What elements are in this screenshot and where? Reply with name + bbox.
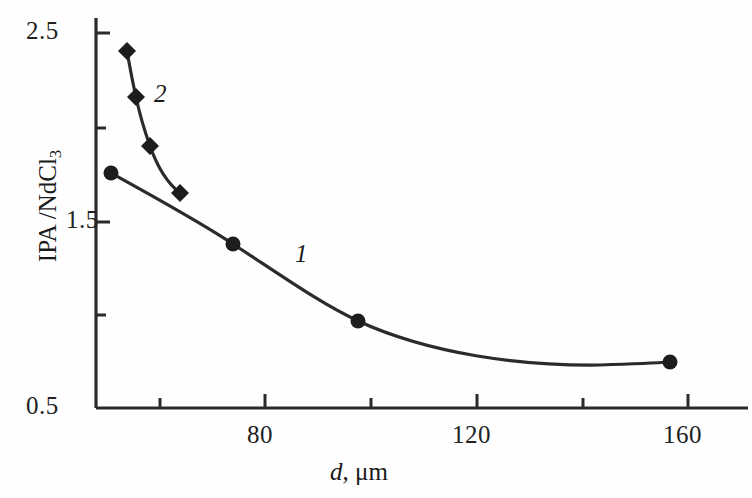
y-axis-title-subscript: 3: [46, 150, 65, 159]
curve-2-line: [127, 51, 180, 193]
data-point: [663, 355, 678, 370]
data-point: [351, 314, 366, 329]
y-axis-title: IPA /NdCl3: [34, 96, 66, 316]
data-point: [141, 137, 159, 155]
y-tick-label-2.5: 2.5: [26, 17, 59, 45]
y-tick-label-1.5: 1.5: [66, 206, 99, 234]
x-tick-label-160: 160: [663, 421, 702, 449]
x-axis-title: d, μm: [330, 458, 388, 486]
x-tick-label-120: 120: [452, 421, 491, 449]
series-label-2: 2: [154, 80, 167, 108]
y-axis-title-main: IPA /NdCl: [34, 158, 61, 262]
x-axis-ticks: [160, 394, 688, 408]
data-point: [104, 166, 119, 181]
figure-canvas: 2.5 1.5 0.5 80 120 160 IPA /NdCl3 d, μm …: [0, 0, 752, 498]
curve-1-markers: [104, 166, 678, 370]
x-axis-title-unit: μm: [355, 458, 388, 485]
x-axis-title-separator: ,: [343, 458, 356, 485]
curve-1-line: [111, 173, 670, 365]
data-point: [127, 88, 145, 106]
axis-lines: [96, 18, 748, 408]
x-tick-label-80: 80: [247, 421, 273, 449]
series-label-1: 1: [295, 240, 308, 268]
data-point: [118, 42, 136, 60]
y-tick-label-0.5: 0.5: [26, 392, 59, 420]
x-axis-title-variable: d: [330, 458, 343, 485]
plot-area: [0, 0, 752, 498]
data-point: [226, 237, 241, 252]
